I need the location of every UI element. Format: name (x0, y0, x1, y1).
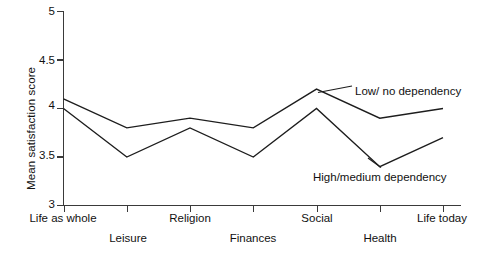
leader-line-high (368, 158, 381, 168)
y-tick-marks (57, 12, 64, 206)
plot-area (0, 0, 482, 262)
series-line-low-no-dependency (64, 89, 444, 128)
x-tick-marks (65, 206, 444, 212)
leader-line-low (318, 86, 352, 93)
line-chart: Mean satisfaction score 5 4.5 4 3.5 3 Li… (0, 0, 482, 262)
